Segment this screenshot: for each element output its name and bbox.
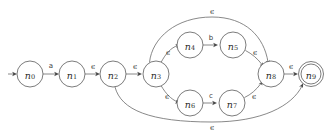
- edge-n0-n1: [43, 72, 59, 76]
- edge-label-n2-n3: ϵ: [133, 62, 137, 71]
- edge-label-n2-n9-bottom: ϵ: [210, 123, 214, 132]
- edge-label-n1-n2: ϵ: [91, 62, 95, 71]
- edge-label-n3-n8-top: ϵ: [210, 7, 214, 16]
- state-node-n3[interactable]: n3: [143, 61, 169, 87]
- state-node-n5[interactable]: n5: [220, 32, 246, 58]
- edge-label-n3-n6: ϵ: [165, 92, 169, 101]
- state-node-n0[interactable]: n0: [17, 61, 43, 87]
- state-node-n2[interactable]: n2: [100, 61, 126, 87]
- edge-label-n3-n4: ϵ: [166, 48, 170, 57]
- edge-label-n6-n7: c: [209, 92, 213, 100]
- edge-start-n0: [8, 72, 17, 76]
- edge-n8-n9: [284, 72, 298, 76]
- edge-n4-n5: [203, 43, 218, 47]
- edge-label-n7-n8: ϵ: [252, 92, 256, 101]
- state-node-n8[interactable]: n8: [258, 61, 284, 87]
- edge-n3-n6-curve: [161, 86, 178, 103]
- state-node-n6[interactable]: n6: [177, 90, 203, 116]
- edge-label-group: a ϵ ϵ ϵ b ϵ ϵ c ϵ ϵ ϵ ϵ: [49, 7, 293, 132]
- nfa-diagram-canvas: n0 n1 n2 n3 n4 n5: [0, 0, 328, 136]
- edge-label-n4-n5: b: [209, 34, 214, 42]
- nfa-diagram-svg: n0 n1 n2 n3 n4 n5: [0, 0, 328, 136]
- edge-label-n0-n1: a: [49, 62, 53, 70]
- state-node-n7[interactable]: n7: [219, 90, 245, 116]
- edge-label-n8-n9: ϵ: [289, 62, 293, 71]
- edge-n6-n7: [203, 101, 217, 105]
- state-node-n4[interactable]: n4: [177, 32, 203, 58]
- state-node-n1[interactable]: n1: [59, 61, 85, 87]
- node-group: n0 n1 n2 n3 n4 n5: [17, 32, 324, 116]
- state-node-n9[interactable]: n9: [299, 62, 324, 87]
- edge-n1-n2: [85, 72, 100, 76]
- edge-n2-n3: [126, 72, 142, 76]
- edge-label-n5-n8: ϵ: [253, 48, 257, 57]
